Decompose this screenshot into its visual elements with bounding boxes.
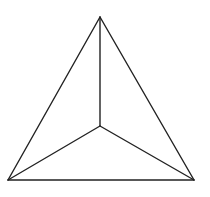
outer-edge-right — [100, 17, 194, 180]
outer-edge-left — [8, 17, 100, 180]
inner-edge-left — [8, 126, 100, 180]
triangle-diagram — [0, 0, 210, 197]
inner-edge-right — [100, 126, 194, 180]
triangle-edges — [8, 17, 194, 180]
